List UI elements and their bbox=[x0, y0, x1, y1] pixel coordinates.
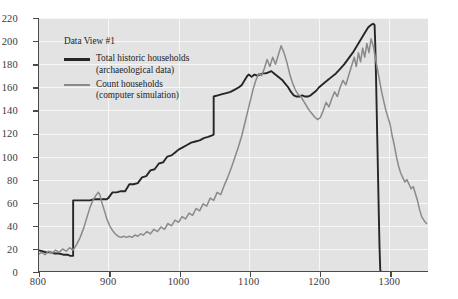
x-axis-tick-label: 1200 bbox=[297, 276, 341, 287]
y-axis-tick-label: 80 bbox=[0, 174, 18, 185]
x-axis-tick-label: 900 bbox=[86, 276, 130, 287]
legend-label-1: Total historic households bbox=[96, 53, 189, 64]
x-axis-tick-label: 800 bbox=[16, 276, 60, 287]
legend-label-group-1: Total historic households(archaeological… bbox=[96, 53, 189, 76]
y-axis-tick-label: 100 bbox=[0, 151, 18, 162]
x-axis-tick-label: 1100 bbox=[227, 276, 271, 287]
y-axis-tick-label: 40 bbox=[0, 220, 18, 231]
legend-entries: Total historic households(archaeological… bbox=[64, 53, 189, 101]
y-axis-tick-label: 180 bbox=[0, 59, 18, 70]
legend-label-group-2: Count households(computer simulation) bbox=[96, 79, 179, 102]
y-axis-tick-label: 60 bbox=[0, 197, 18, 208]
y-axis-tick-label: 200 bbox=[0, 36, 18, 47]
x-axis-tick-label: 1300 bbox=[367, 276, 411, 287]
legend-item-2: Count households(computer simulation) bbox=[64, 79, 189, 102]
legend-sublabel-2: (computer simulation) bbox=[96, 90, 179, 101]
legend-swatch-2 bbox=[64, 84, 90, 86]
x-axis-tick-label: 1000 bbox=[157, 276, 201, 287]
legend-swatch-1 bbox=[64, 58, 90, 61]
legend: Data View #1 Total historic households(a… bbox=[64, 36, 189, 105]
y-axis-tick bbox=[33, 272, 39, 273]
legend-title: Data View #1 bbox=[64, 36, 189, 47]
y-axis-tick-label: 120 bbox=[0, 128, 18, 139]
legend-label-2: Count households bbox=[96, 79, 179, 90]
y-axis-tick-label: 160 bbox=[0, 82, 18, 93]
y-axis-tick-label: 220 bbox=[0, 13, 18, 24]
y-axis-tick-label: 20 bbox=[0, 243, 18, 254]
legend-sublabel-1: (archaeological data) bbox=[96, 65, 189, 76]
legend-item-1: Total historic households(archaeological… bbox=[64, 53, 189, 76]
chart-container: 020406080100120140160180200220 800900100… bbox=[0, 0, 458, 299]
y-axis-tick-label: 140 bbox=[0, 105, 18, 116]
